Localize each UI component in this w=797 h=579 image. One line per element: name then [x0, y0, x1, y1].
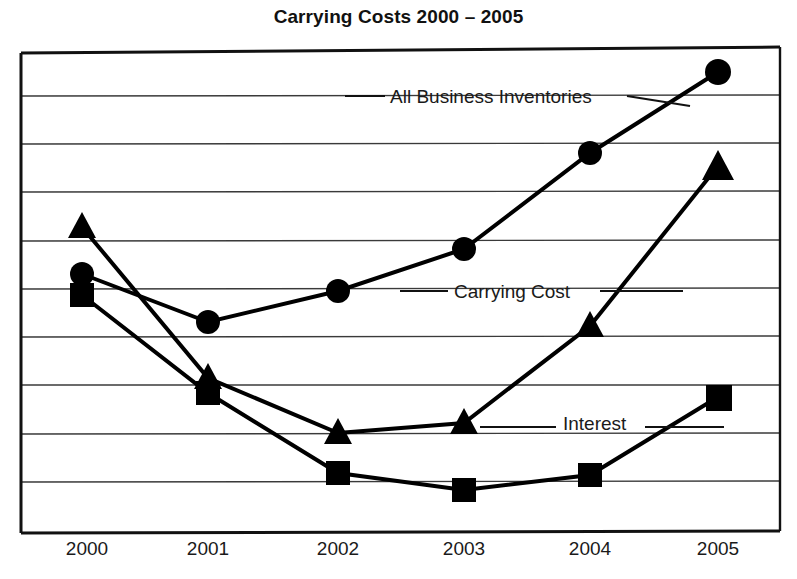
data-point-marker — [578, 141, 602, 165]
data-point-marker — [452, 237, 476, 261]
series-line-interest — [82, 295, 718, 490]
data-point-marker — [452, 478, 476, 502]
data-point-marker — [326, 461, 350, 485]
xtick-label-2002: 2002 — [298, 538, 378, 560]
data-point-marker — [450, 408, 478, 434]
annotation-interest: Interest — [563, 413, 626, 435]
data-point-marker — [68, 212, 96, 238]
gridline — [21, 433, 780, 434]
series-line-carrying-cost — [82, 166, 718, 433]
xtick-label-2000: 2000 — [47, 538, 127, 560]
annotation-all-business-inventories: All Business Inventories — [390, 86, 592, 108]
gridline — [21, 240, 780, 241]
data-point-marker — [326, 279, 350, 303]
chart-figure: Carrying Costs 2000 – 2005 — [0, 0, 797, 579]
data-point-marker — [705, 59, 731, 85]
data-point-marker — [196, 310, 220, 334]
annotation-carrying-cost: Carrying Cost — [454, 281, 570, 303]
data-point-marker — [70, 262, 94, 286]
frame-top — [21, 47, 780, 53]
gridline — [21, 143, 780, 144]
xtick-label-2001: 2001 — [168, 538, 248, 560]
data-point-marker — [578, 463, 602, 487]
data-point-marker — [706, 385, 732, 411]
gridline — [21, 191, 780, 192]
xtick-label-2003: 2003 — [424, 538, 504, 560]
frame-bottom — [21, 531, 780, 533]
data-point-marker — [702, 150, 734, 180]
series-carrying-cost — [68, 150, 734, 444]
xtick-label-2005: 2005 — [678, 538, 758, 560]
data-point-marker — [196, 381, 220, 405]
annotation-leader-lines — [345, 96, 724, 427]
series-interest — [70, 283, 732, 502]
data-point-marker — [70, 283, 94, 307]
xtick-label-2004: 2004 — [550, 538, 630, 560]
